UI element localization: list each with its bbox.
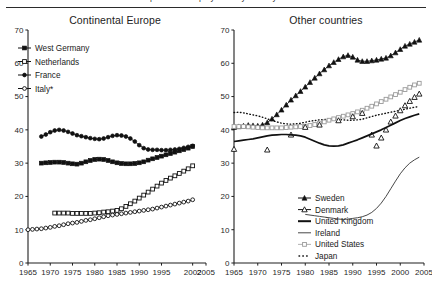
marker-gray-square: [299, 125, 303, 129]
legend-label: West Germany: [35, 44, 90, 53]
marker-open-circle: [26, 228, 30, 232]
legend-item-united-kingdom[interactable]: United Kingdom: [298, 217, 373, 226]
marker-open-triangle: [393, 113, 398, 118]
marker-filled-circle: [111, 134, 115, 138]
marker-open-square: [106, 210, 110, 214]
marker-filled-circle: [80, 134, 84, 138]
y-tick-label: 0: [19, 259, 24, 268]
x-tick-label: 1995: [368, 268, 386, 277]
legend-item-west-germany[interactable]: West Germany: [18, 44, 90, 53]
marker-filled-circle: [48, 130, 52, 134]
marker-open-square: [182, 169, 186, 173]
marker-filled-circle: [93, 137, 97, 141]
marker-open-circle: [186, 199, 190, 203]
marker-gray-square: [379, 100, 383, 104]
x-tick-label: 1990: [344, 268, 362, 277]
x-tick-label: 1980: [86, 268, 104, 277]
marker-filled-square: [177, 149, 181, 153]
marker-open-circle: [23, 87, 27, 91]
series-line: [41, 130, 192, 150]
marker-filled-circle: [142, 146, 146, 150]
panel-continental-europe: Continental Europe 010203040506070196519…: [0, 12, 216, 295]
marker-filled-circle: [137, 143, 141, 147]
legend-item-japan[interactable]: Japan: [299, 252, 338, 261]
marker-gray-square: [413, 83, 417, 87]
marker-open-circle: [146, 208, 150, 212]
y-tick-label: 20: [221, 192, 230, 201]
marker-filled-square: [75, 162, 79, 166]
legend-item-france[interactable]: France: [18, 71, 61, 80]
marker-filled-circle: [120, 134, 124, 138]
marker-filled-circle: [164, 148, 168, 152]
marker-filled-square: [39, 161, 43, 165]
marker-open-square: [66, 211, 70, 215]
y-tick-label: 40: [221, 126, 230, 135]
cut-off-caption: part-time employment by country: [150, 0, 430, 2]
marker-filled-square: [71, 162, 75, 166]
x-tick-label: 1995: [153, 268, 171, 277]
marker-open-circle: [62, 223, 66, 227]
legend-item-united-states[interactable]: United States: [298, 240, 364, 249]
y-tick-label: 10: [221, 226, 230, 235]
marker-open-circle: [97, 216, 101, 220]
legend: West GermanyNetherlandsFranceItaly*: [18, 44, 90, 94]
marker-open-square: [164, 179, 168, 183]
marker-filled-circle: [84, 135, 88, 139]
marker-filled-circle: [57, 128, 61, 132]
marker-open-square: [173, 174, 177, 178]
marker-filled-square: [97, 157, 101, 161]
panel-other-countries: Other countries 010203040506070196519701…: [210, 12, 432, 295]
marker-open-circle: [128, 211, 132, 215]
legend: SwedenDenmarkUnited KingdomIrelandUnited…: [298, 194, 373, 261]
marker-open-triangle: [417, 91, 422, 96]
marker-filled-triangle: [336, 57, 341, 62]
marker-filled-square: [186, 146, 190, 150]
marker-filled-circle: [102, 137, 106, 141]
marker-open-triangle: [265, 147, 270, 152]
marker-open-circle: [142, 209, 146, 213]
marker-open-square: [169, 176, 173, 180]
y-tick-label: 50: [221, 92, 230, 101]
marker-filled-circle: [62, 129, 66, 133]
legend-item-sweden[interactable]: Sweden: [298, 194, 345, 203]
legend-item-denmark[interactable]: Denmark: [298, 206, 349, 215]
marker-open-square: [102, 210, 106, 214]
marker-gray-square: [375, 102, 379, 106]
legend-item-netherlands[interactable]: Netherlands: [18, 58, 79, 67]
marker-open-square: [137, 196, 141, 200]
marker-open-circle: [88, 218, 92, 222]
marker-gray-square: [256, 126, 260, 130]
marker-open-square: [155, 184, 159, 188]
legend-label: France: [35, 71, 61, 80]
marker-gray-square: [308, 124, 312, 128]
x-tick-label: 1985: [108, 268, 126, 277]
marker-open-triangle: [231, 146, 236, 151]
marker-filled-triangle: [384, 55, 389, 60]
x-tick-label: 1985: [320, 268, 338, 277]
marker-open-circle: [71, 221, 75, 225]
marker-open-circle: [115, 213, 119, 217]
marker-filled-square: [133, 162, 137, 166]
marker-filled-triangle: [398, 47, 403, 52]
marker-filled-triangle: [331, 60, 336, 65]
marker-filled-square: [53, 160, 57, 164]
x-tick-label: 1980: [296, 268, 314, 277]
legend-label: United States: [315, 240, 364, 249]
marker-filled-square: [169, 152, 173, 156]
marker-filled-square: [88, 159, 92, 163]
legend-label: Ireland: [315, 229, 340, 238]
marker-open-square: [115, 209, 119, 213]
marker-filled-square: [115, 161, 119, 165]
marker-filled-circle: [146, 148, 150, 152]
marker-open-circle: [164, 204, 168, 208]
y-tick-label: 40: [15, 126, 24, 135]
marker-filled-triangle: [393, 50, 398, 55]
marker-gray-square: [270, 126, 274, 130]
marker-filled-square: [137, 161, 141, 165]
marker-gray-square: [284, 126, 288, 130]
marker-filled-triangle: [412, 39, 417, 44]
marker-open-circle: [39, 227, 43, 231]
marker-open-circle: [169, 203, 173, 207]
marker-open-circle: [35, 227, 39, 231]
legend-item-ireland[interactable]: Ireland: [298, 229, 340, 238]
